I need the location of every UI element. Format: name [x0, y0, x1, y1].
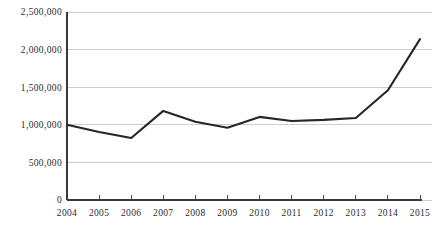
y-axis-tick-label: 2,500,000: [21, 7, 62, 17]
line-chart: 0500,0001,000,0001,500,0002,000,0002,500…: [0, 0, 432, 232]
x-axis-tick-label: 2005: [89, 208, 109, 218]
x-axis-tick-label: 2009: [217, 208, 237, 218]
chart-background: [0, 0, 432, 232]
data-point: [94, 127, 104, 137]
data-point: [62, 120, 72, 130]
data-point: [190, 117, 200, 127]
y-axis-tick-label: 0: [57, 195, 62, 205]
x-axis-tick-label: 2004: [57, 208, 77, 218]
x-axis-tick-label: 2013: [346, 208, 366, 218]
data-point: [351, 113, 361, 123]
chart-canvas: 0500,0001,000,0001,500,0002,000,0002,500…: [0, 0, 432, 232]
data-point: [383, 85, 393, 95]
x-axis-tick-label: 2015: [410, 208, 430, 218]
x-axis-tick-label: 2012: [314, 208, 334, 218]
y-axis-tick-label: 1,500,000: [21, 83, 62, 93]
data-point: [319, 115, 329, 125]
data-point: [255, 112, 265, 122]
y-axis-tick-label: 2,000,000: [21, 45, 62, 55]
x-axis-tick-label: 2006: [121, 208, 141, 218]
x-axis-tick-label: 2007: [153, 208, 173, 218]
data-point: [415, 34, 425, 44]
x-axis-tick-label: 2011: [282, 208, 302, 218]
x-axis-tick-label: 2010: [249, 208, 269, 218]
x-axis-tick-label: 2008: [185, 208, 205, 218]
y-axis-tick-label: 1,000,000: [21, 120, 62, 130]
data-point: [222, 123, 232, 133]
data-point: [126, 133, 136, 143]
y-axis-tick-label: 500,000: [29, 158, 62, 168]
data-point: [158, 106, 168, 116]
data-point: [287, 116, 297, 126]
x-axis-tick-label: 2014: [378, 208, 398, 218]
